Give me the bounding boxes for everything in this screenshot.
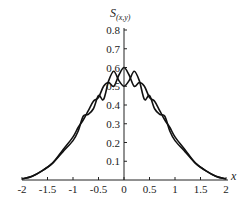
x-tick-label: -0.5 — [90, 183, 108, 195]
x-tick-label: -2 — [17, 183, 26, 195]
y-tick-label: 0.3 — [106, 118, 120, 130]
x-tick-label: 1.5 — [194, 183, 208, 195]
x-tick-label: 0 — [121, 183, 127, 195]
x-tick-label: 1 — [172, 183, 178, 195]
y-axis-label-subscript: (x,y) — [116, 13, 131, 22]
x-tick-label: -1.5 — [39, 183, 57, 195]
x-tick-label: 2 — [223, 183, 229, 195]
chart: -2-1.5-1-0.500.511.52 0.10.20.30.40.50.6… — [0, 0, 249, 203]
x-tick-label: -1 — [68, 183, 77, 195]
y-tick-label: 0.7 — [106, 43, 120, 55]
y-axis-label: S(x,y) — [110, 6, 131, 22]
y-tick-label: 0.1 — [106, 155, 120, 167]
x-tick-label: 0.5 — [143, 183, 157, 195]
y-tick-label: 0.6 — [106, 62, 120, 74]
y-tick-label: 0.4 — [106, 99, 120, 111]
x-axis-label: x — [230, 169, 237, 183]
y-tick-label: 0.8 — [106, 24, 120, 36]
y-tick-label: 0.5 — [106, 80, 120, 92]
y-tick-label: 0.2 — [106, 137, 120, 149]
